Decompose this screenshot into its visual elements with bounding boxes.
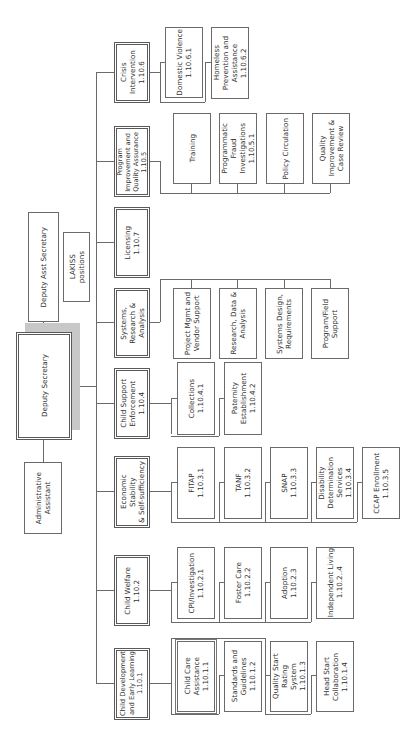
deputy-asst-secretary-label: Deputy Asst Secretary xyxy=(39,227,48,308)
connector xyxy=(96,242,114,243)
connector xyxy=(171,398,172,434)
division-child-welfare[interactable]: Child Welfare 1.10.2 xyxy=(114,555,150,626)
connector xyxy=(149,72,160,73)
unit-programmatic-fraud[interactable]: Programmatic Fraud Investigations 1.10.5… xyxy=(219,113,257,184)
unit-standards-guidelines[interactable]: Standards and Guidelines 1.10.1.2 xyxy=(224,641,262,712)
deputy-secretary-label: Deputy Secretary xyxy=(40,354,49,417)
division-label: Child Development and Early Learning 1.1… xyxy=(119,651,145,716)
connector xyxy=(171,436,219,437)
connector xyxy=(149,683,171,684)
unit-label: Project Mgmt and Vendor Support xyxy=(183,292,201,355)
lakiss-positions-box[interactable]: LAKISS positions xyxy=(63,232,90,302)
division-crisis-intervention[interactable]: Crisis Intervention 1.10.6 xyxy=(114,42,150,103)
administrative-assistant-label: Administrative Assistant xyxy=(34,472,52,524)
unit-label: Disability Determination Services 1.10.3… xyxy=(317,457,353,509)
unit-label: TANF 1.10.3.2 xyxy=(234,468,252,498)
division-label: Systems, Research & Analysis xyxy=(119,303,146,344)
connector xyxy=(171,714,219,715)
unit-paternity[interactable]: Paternity Establishment 1.10.4.2 xyxy=(224,362,262,435)
unit-adoption[interactable]: Adoption 1.10.2.3 xyxy=(270,547,308,619)
unit-label: Quality Improvement & Case Review xyxy=(318,120,345,176)
connector xyxy=(96,590,114,591)
connector xyxy=(311,675,312,714)
deputy-secretary-box[interactable]: Deputy Secretary xyxy=(16,332,72,440)
connector xyxy=(171,638,172,714)
unit-label: Policy Circulation xyxy=(281,118,290,179)
unit-fitap[interactable]: FITAP 1.10.3.1 xyxy=(177,447,215,519)
unit-label: Domestic Violence 1.10.6.1 xyxy=(175,29,193,96)
connector xyxy=(160,279,161,322)
connector xyxy=(311,582,312,622)
division-label: Economic Stability & Self-sufficiency xyxy=(119,459,146,525)
deputy-asst-secretary-box[interactable]: Deputy Asst Secretary xyxy=(28,212,59,322)
connector xyxy=(149,322,160,323)
unit-label: Adoption 1.10.2.3 xyxy=(280,567,298,599)
division-label: Crisis Intervention 1.10.6 xyxy=(119,45,146,100)
connector xyxy=(191,183,192,193)
unit-training[interactable]: Training xyxy=(173,113,211,184)
division-label: Child Welfare 1.10.2 xyxy=(123,567,141,615)
unit-child-care-assistance[interactable]: Child Care Assistance 1.10.1.1 xyxy=(177,641,215,712)
division-licensing[interactable]: Licensing 1.10.7 xyxy=(114,207,150,278)
unit-foster-care[interactable]: Foster Care 1.10.2.2 xyxy=(224,547,262,619)
division-child-development[interactable]: Child Development and Early Learning 1.1… xyxy=(114,648,150,720)
connector xyxy=(219,675,220,714)
connector xyxy=(149,491,171,492)
unit-cpi-investigation[interactable]: CPI/Investigation 1.10.2.1 xyxy=(177,547,215,619)
unit-program-field-support[interactable]: Program/Field Support xyxy=(311,288,349,359)
division-economic-stability[interactable]: Economic Stability & Self-sufficiency xyxy=(114,456,150,528)
org-chart: Deputy Secretary Deputy Asst Secretary L… xyxy=(0,0,411,740)
connector xyxy=(191,279,192,288)
division-label: Program Improvement and Quality Assuranc… xyxy=(116,132,148,192)
unit-label: Quality Start Rating System 1.10.1.3 xyxy=(271,642,307,711)
connector xyxy=(219,482,220,522)
division-label: Child Support Enforcement 1.10.4 xyxy=(119,379,146,428)
unit-snap[interactable]: SNAP 1.10.3.3 xyxy=(270,447,308,519)
unit-label: FITAP 1.10.3.1 xyxy=(187,468,205,498)
unit-policy-circulation[interactable]: Policy Circulation xyxy=(266,113,304,184)
unit-label: Foster Care 1.10.2.2 xyxy=(234,562,252,603)
connector xyxy=(237,279,238,288)
connector xyxy=(96,683,114,684)
division-child-support-enforcement[interactable]: Child Support Enforcement 1.10.4 xyxy=(114,368,150,439)
unit-research-data[interactable]: Research, Data & Analysis xyxy=(219,288,257,359)
unit-label: Collections 1.10.4.1 xyxy=(187,379,205,418)
administrative-assistant-box[interactable]: Administrative Assistant xyxy=(24,462,62,534)
connector xyxy=(149,161,160,162)
unit-label: Program/Field Support xyxy=(321,299,339,348)
unit-homeless-prevention[interactable]: Homeless Prevention and Assistance 1.10.… xyxy=(211,27,249,99)
division-systems-research-analysis[interactable]: Systems, Research & Analysis xyxy=(114,288,150,358)
lakiss-label: LAKISS positions xyxy=(68,251,86,283)
unit-quality-improvement[interactable]: Quality Improvement & Case Review xyxy=(312,113,350,184)
unit-label: Research, Data & Analysis xyxy=(229,292,247,355)
connector xyxy=(171,482,172,522)
connector xyxy=(171,522,357,523)
unit-collections[interactable]: Collections 1.10.4.1 xyxy=(177,362,215,435)
unit-domestic-violence[interactable]: Domestic Violence 1.10.6.1 xyxy=(165,27,203,98)
connector xyxy=(160,62,161,102)
unit-tanf[interactable]: TANF 1.10.3.2 xyxy=(224,447,262,519)
unit-disability-determination[interactable]: Disability Determination Services 1.10.3… xyxy=(316,447,354,519)
division-spine-line xyxy=(96,72,97,684)
connector xyxy=(265,482,266,522)
unit-label: Head Start Collaboration 1.10.1.4 xyxy=(322,653,349,701)
unit-ccap-enrollment[interactable]: CCAP Enrollment 1.10.3.5 xyxy=(362,447,400,519)
unit-independent-living[interactable]: Independent Living 1.10.2..4 xyxy=(316,547,354,619)
unit-head-start-collaboration[interactable]: Head Start Collaboration 1.10.1.4 xyxy=(316,641,354,712)
connector xyxy=(160,193,330,194)
unit-project-mgmt[interactable]: Project Mgmt and Vendor Support xyxy=(173,288,211,359)
connector xyxy=(160,161,161,193)
connector xyxy=(357,482,358,522)
unit-label: Paternity Establishment 1.10.4.2 xyxy=(230,373,257,424)
connector xyxy=(43,440,44,462)
unit-label: Independent Living 1.10.2..4 xyxy=(326,548,344,617)
unit-label: Systems Design, Requirements xyxy=(275,294,293,354)
division-program-improvement-qa[interactable]: Program Improvement and Quality Assuranc… xyxy=(114,126,150,197)
unit-systems-design[interactable]: Systems Design, Requirements xyxy=(265,288,303,359)
connector xyxy=(284,279,285,288)
connector xyxy=(265,714,311,715)
unit-quality-start-rating[interactable]: Quality Start Rating System 1.10.1.3 xyxy=(270,641,308,712)
connector xyxy=(171,638,265,639)
connector xyxy=(205,62,206,102)
unit-label: CPI/Investigation 1.10.2.1 xyxy=(187,553,205,614)
